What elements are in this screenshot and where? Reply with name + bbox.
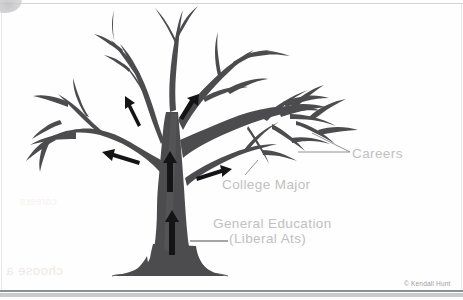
leader-line-college-major [245, 160, 258, 175]
branch-center-tip-a [155, 8, 176, 43]
branch-upperleft-tip-b [112, 10, 115, 44]
label-general-education-line1: General Education [213, 216, 332, 231]
label-college-major: College Major [222, 177, 311, 192]
branch-upperright-tip-a [215, 32, 222, 77]
leader-line-careers-lower [312, 133, 350, 152]
branch-upperright-tip-c [246, 51, 290, 58]
arrow-branch-left [102, 149, 140, 165]
branch-upperleft-tip-a [94, 34, 123, 53]
branch-center-tip-b [178, 6, 198, 36]
branch-right-sub-d2 [318, 127, 358, 135]
label-general-education: General Education (Liberal Ats) [213, 216, 332, 246]
tree-root-left [112, 256, 150, 276]
arrow-branch-upperleft [125, 96, 141, 127]
branch-upperright-sub-b [226, 79, 268, 94]
branch-center-main [169, 10, 183, 112]
figure-page: choose a careers [0, 0, 463, 300]
tree-root-right [196, 254, 228, 276]
copyright-credit: © Kendall Hunt [404, 280, 451, 287]
label-general-education-line2: (Liberal Ats) [213, 231, 332, 246]
label-careers: Careers [352, 146, 403, 161]
